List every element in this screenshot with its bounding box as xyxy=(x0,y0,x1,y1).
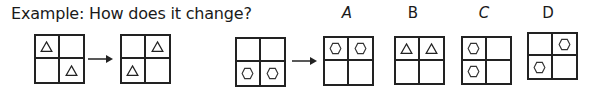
grid-cell xyxy=(487,61,511,84)
grid-cell xyxy=(420,38,444,61)
grid-cell xyxy=(396,38,420,61)
example-before-grid xyxy=(34,34,85,84)
grid-cell xyxy=(36,59,60,82)
triangle-icon xyxy=(40,40,53,53)
grid-cell xyxy=(349,38,373,61)
grid-cell xyxy=(261,62,285,85)
option-a-grid[interactable] xyxy=(323,36,374,86)
triangle-icon xyxy=(65,64,78,77)
grid-cell xyxy=(146,36,170,59)
grid-cell xyxy=(463,38,487,61)
grid-cell xyxy=(349,61,373,84)
option-d-label: D xyxy=(533,4,563,22)
grid-cell xyxy=(420,61,444,84)
problem-arrow-icon xyxy=(292,56,317,66)
grid-cell xyxy=(261,39,285,62)
hexagon-icon xyxy=(329,42,342,55)
grid-cell xyxy=(553,56,577,78)
grid-cell xyxy=(60,36,84,59)
grid-cell xyxy=(122,59,146,82)
hexagon-icon xyxy=(241,67,254,80)
hexagon-icon xyxy=(533,61,546,74)
option-a-label: A xyxy=(332,4,362,22)
hexagon-icon xyxy=(558,38,571,51)
grid-cell xyxy=(463,61,487,84)
grid-cell xyxy=(553,34,577,56)
option-b-label: B xyxy=(398,4,428,22)
grid-cell xyxy=(487,38,511,61)
grid-cell xyxy=(122,36,146,59)
grid-cell xyxy=(325,61,349,84)
option-c-grid[interactable] xyxy=(461,36,512,85)
hexagon-icon xyxy=(467,42,480,55)
grid-cell xyxy=(60,59,84,82)
example-arrow-icon xyxy=(88,54,113,64)
option-c-label: C xyxy=(469,4,499,22)
grid-cell xyxy=(396,61,420,84)
triangle-icon xyxy=(151,40,164,53)
example-after-grid xyxy=(120,34,171,84)
question-title: Example: How does it change? xyxy=(11,4,252,23)
option-b-grid[interactable] xyxy=(394,36,445,85)
grid-cell xyxy=(237,62,261,85)
grid-cell xyxy=(529,56,553,78)
triangle-icon xyxy=(126,64,139,77)
hexagon-icon xyxy=(467,65,480,78)
grid-cell xyxy=(36,36,60,59)
problem-before-grid xyxy=(235,37,286,87)
hexagon-icon xyxy=(266,67,279,80)
grid-cell xyxy=(146,59,170,82)
option-d-grid[interactable] xyxy=(527,32,578,80)
grid-cell xyxy=(529,34,553,56)
grid-cell xyxy=(237,39,261,62)
hexagon-icon xyxy=(354,42,367,55)
triangle-icon xyxy=(400,42,413,55)
triangle-icon xyxy=(425,42,438,55)
grid-cell xyxy=(325,38,349,61)
